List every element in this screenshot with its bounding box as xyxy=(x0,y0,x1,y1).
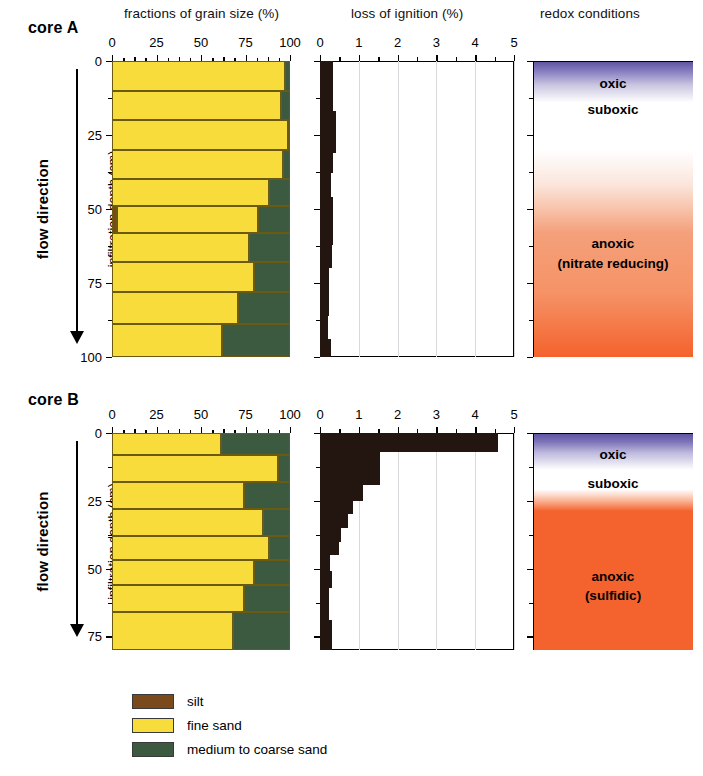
grain-size-chart-b: 02550751000255075 xyxy=(112,433,290,650)
loi-bar xyxy=(320,221,333,245)
figure-root: fractions of grain size (%) loss of igni… xyxy=(0,0,703,776)
loi-bar-row xyxy=(320,636,514,650)
grain-size-segment xyxy=(112,324,222,357)
grain-x-tick-label: 50 xyxy=(194,35,208,50)
grain-size-segment xyxy=(112,536,269,560)
loi-bar xyxy=(320,542,339,556)
loi-x-tick-label: 0 xyxy=(316,407,323,422)
grain-size-bar xyxy=(112,91,290,121)
loi-x-tick-label: 1 xyxy=(355,407,362,422)
loi-bar xyxy=(320,197,333,221)
legend-label: silt xyxy=(187,694,204,709)
depth-tick-label: 75 xyxy=(60,276,102,291)
legend-label: fine sand xyxy=(187,718,242,733)
depth-tick xyxy=(106,357,112,358)
loi-x-tick-label: 4 xyxy=(472,35,479,50)
loi-bar xyxy=(320,132,336,153)
grain-size-segment xyxy=(269,179,290,206)
header-grain-size: fractions of grain size (%) xyxy=(124,6,279,21)
depth-tick xyxy=(314,357,320,358)
redox-zone-label: suboxic xyxy=(533,102,693,118)
redox-zone-label: suboxic xyxy=(533,476,693,492)
grain-size-segment xyxy=(249,233,290,263)
legend: siltfine sandmedium to coarse sand xyxy=(132,694,462,766)
redox-zone-label: anoxic xyxy=(533,236,693,252)
depth-tick-label: 25 xyxy=(60,128,102,143)
grain-size-segment xyxy=(112,91,281,121)
grain-x-tick xyxy=(290,55,291,61)
grain-size-segment xyxy=(112,509,263,536)
grain-size-bar xyxy=(112,120,290,150)
depth-tick xyxy=(527,283,533,284)
grain-size-segment xyxy=(244,482,290,509)
header-loss-of-ignition: loss of ignition (%) xyxy=(351,6,463,21)
loi-bar xyxy=(320,292,329,316)
grain-size-segment xyxy=(112,585,244,612)
loi-gridline xyxy=(514,433,515,650)
depth-tick xyxy=(527,209,533,210)
grain-x-tick-label: 100 xyxy=(279,35,301,50)
grain-size-bar xyxy=(112,292,290,325)
redox-zone-label: oxic xyxy=(533,447,693,463)
legend-swatch xyxy=(132,742,174,757)
grain-size-segment xyxy=(117,206,258,233)
redox-zone-label: (nitrate reducing) xyxy=(533,256,693,272)
depth-tick xyxy=(527,501,533,502)
grain-size-segment xyxy=(112,179,269,206)
loi-x-tick-label: 5 xyxy=(510,407,517,422)
loi-bar-row xyxy=(320,620,514,636)
grain-size-segment xyxy=(112,482,244,509)
depth-minor-tick xyxy=(529,535,533,536)
loi-bar-row xyxy=(320,111,514,132)
loi-bar-row xyxy=(320,468,514,484)
grain-size-bar xyxy=(112,324,290,357)
grain-size-segment xyxy=(112,560,254,584)
grain-size-segment xyxy=(283,150,290,180)
loi-bar xyxy=(320,620,332,636)
depth-tick-label: 50 xyxy=(60,202,102,217)
loi-bar-row xyxy=(320,132,514,153)
grain-size-segment xyxy=(112,150,283,180)
grain-x-tick-label: 100 xyxy=(279,407,301,422)
loi-bar xyxy=(320,588,329,604)
loi-bar-row xyxy=(320,452,514,468)
loss-of-ignition-chart-b: 012345 xyxy=(320,433,514,650)
loi-bar-row xyxy=(320,542,514,556)
flow-arrow-head xyxy=(70,331,84,344)
loi-bar xyxy=(320,501,353,515)
loi-x-tick-label: 5 xyxy=(510,35,517,50)
header-redox-conditions: redox conditions xyxy=(540,6,640,21)
grain-size-bar xyxy=(112,509,290,536)
grain-size-bar xyxy=(112,179,290,206)
grain-size-segment xyxy=(254,560,290,584)
grain-size-segment xyxy=(278,455,290,482)
legend-item: medium to coarse sand xyxy=(132,742,327,757)
depth-tick-label: 0 xyxy=(60,426,102,441)
grain-size-bar xyxy=(112,612,290,650)
loi-bar xyxy=(320,514,348,528)
loi-bar-row xyxy=(320,268,514,292)
depth-tick-label: 0 xyxy=(60,54,102,69)
grain-size-bar xyxy=(112,206,290,233)
grain-size-segment xyxy=(112,61,285,91)
loi-x-tick-label: 1 xyxy=(355,35,362,50)
depth-minor-tick xyxy=(529,467,533,468)
flow-arrow-line xyxy=(76,441,78,626)
depth-tick-label: 25 xyxy=(60,493,102,508)
grain-size-segment xyxy=(258,206,290,233)
loi-bar xyxy=(320,88,333,112)
loi-x-tick-label: 3 xyxy=(433,407,440,422)
grain-size-segment xyxy=(269,536,290,560)
grain-size-segment xyxy=(244,585,290,612)
loi-bar-row xyxy=(320,245,514,269)
grain-size-bar xyxy=(112,536,290,560)
grain-size-bar xyxy=(112,433,290,455)
grain-size-segment xyxy=(254,262,290,292)
grain-size-segment xyxy=(288,120,290,150)
loi-bar-row xyxy=(320,571,514,587)
depth-tick xyxy=(527,357,533,358)
depth-tick-label: 100 xyxy=(60,350,102,365)
loi-bar-row xyxy=(320,61,514,88)
loi-x-tick-label: 2 xyxy=(394,407,401,422)
flow-direction-label: flow direction xyxy=(34,67,51,351)
